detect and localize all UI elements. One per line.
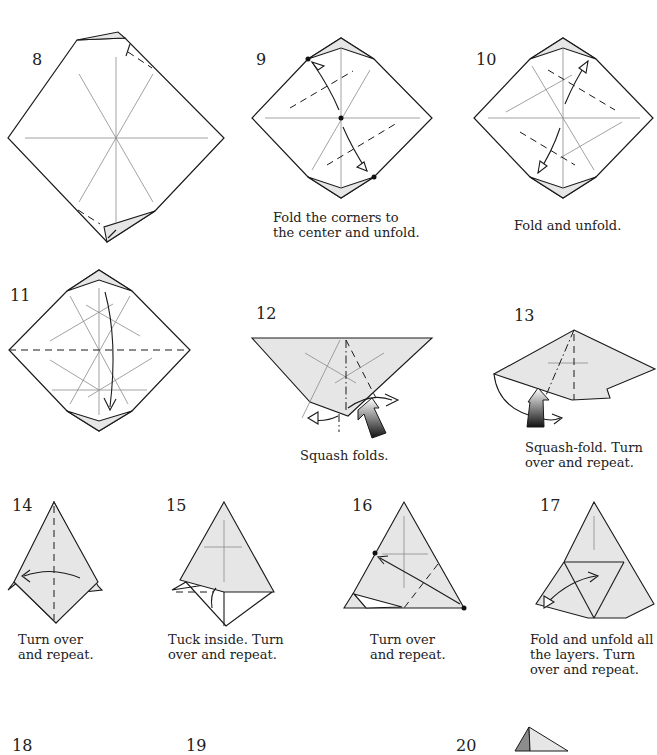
step-caption: Turn over and repeat.: [18, 632, 94, 662]
step-16: 16 Turn over and repeat.: [330, 490, 480, 670]
step-13: 13 Squash-fold. Turn over and repeat.: [480, 290, 657, 480]
step-caption: Fold and unfold.: [514, 218, 621, 233]
step-18: 18: [0, 730, 150, 751]
step-caption: Squash folds.: [300, 448, 388, 463]
step-caption: Squash-fold. Turn over and repeat.: [525, 440, 643, 470]
step-caption: Fold the corners to the center and unfol…: [273, 210, 420, 240]
step-caption: Turn over and repeat.: [370, 632, 446, 662]
step-caption: Fold and unfold all the layers. Turn ove…: [530, 632, 653, 677]
step-10: 10 Fold and unfold.: [460, 30, 657, 250]
step-8-diagram: [0, 30, 230, 250]
step-20: 20: [450, 716, 657, 751]
step-caption: Tuck inside. Turn over and repeat.: [168, 632, 284, 662]
step-number: 18: [12, 736, 32, 755]
step-8: 8: [0, 30, 230, 250]
step-12: 12 Squash folds.: [240, 290, 460, 470]
step-15: 15 Tuck inside. Turn over and repeat.: [160, 490, 290, 670]
step-11: 11: [0, 260, 230, 440]
step-17: 17 Fold and unfold all the layers. Turn …: [520, 490, 657, 690]
step-20-diagram: [450, 716, 657, 751]
step-number: 19: [186, 736, 206, 755]
step-14: 14 Turn over and repeat.: [0, 490, 120, 670]
step-12-diagram: [240, 290, 460, 470]
step-11-diagram: [0, 260, 230, 440]
step-10-diagram: [460, 30, 657, 250]
step-19: 19: [180, 730, 330, 751]
step-9: 9 Fold the corners to the center and unf…: [240, 30, 460, 250]
